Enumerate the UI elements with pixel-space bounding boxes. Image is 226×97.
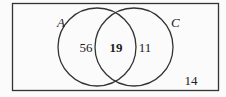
set-c-circle	[95, 8, 173, 86]
outside-count: 14	[185, 73, 199, 88]
set-c-label: C	[171, 15, 180, 30]
set-a-label: A	[56, 15, 65, 30]
venn-diagram: A C 56 19 11 14	[0, 0, 226, 97]
venn-svg: A C 56 19 11 14	[0, 0, 226, 97]
c-only-count: 11	[139, 40, 152, 55]
set-a-circle	[58, 8, 136, 86]
a-only-count: 56	[80, 40, 94, 55]
intersection-count: 19	[110, 40, 124, 55]
